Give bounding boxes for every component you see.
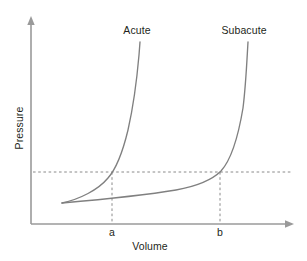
acute-curve (62, 42, 140, 203)
x-tick-label-a: a (109, 227, 115, 238)
x-tick-label-b: b (217, 227, 223, 238)
axis-group (27, 16, 294, 228)
chart-canvas (0, 0, 307, 261)
y-axis-label: Pressure (14, 107, 25, 150)
reference-lines-group (33, 172, 293, 224)
x-axis-label: Volume (132, 241, 168, 252)
y-axis-arrowhead (27, 16, 34, 25)
curve-label-subacute: Subacute (221, 25, 266, 36)
pressure-volume-chart: Acute Subacute Pressure Volume a b (0, 0, 307, 261)
x-axis-arrowhead (285, 220, 294, 227)
curve-label-acute: Acute (123, 25, 150, 36)
